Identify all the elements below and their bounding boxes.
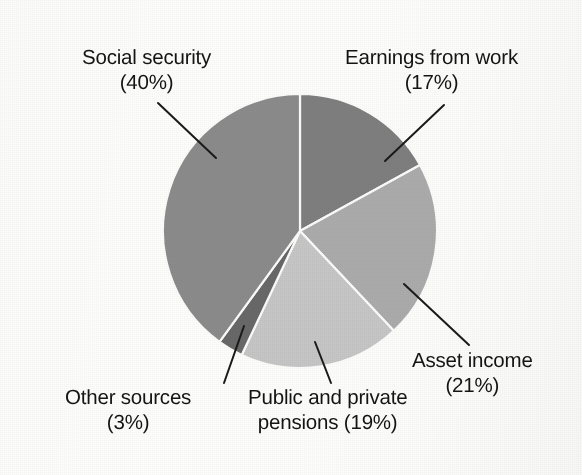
- pie-label-public-and-private-pensions-value: pensions (19%): [248, 410, 407, 435]
- asset-income-leader: [404, 284, 469, 345]
- pie-label-other-sources-name: Other sources: [65, 385, 191, 410]
- pie-label-earnings-from-work-value: (17%): [345, 70, 518, 95]
- pie-label-social-security-name: Social security: [82, 45, 211, 70]
- pie-slices-group: [163, 94, 437, 368]
- pie-label-asset-income: Asset income (21%): [412, 348, 533, 398]
- pie-label-other-sources-value: (3%): [65, 410, 191, 435]
- pie-label-asset-income-name: Asset income: [412, 348, 533, 373]
- pie-label-earnings-from-work-name: Earnings from work: [345, 45, 518, 70]
- pie-label-social-security: Social security (40%): [82, 45, 211, 95]
- pie-label-public-and-private-pensions-name: Public and private: [248, 385, 407, 410]
- pie-label-public-and-private-pensions: Public and private pensions (19%): [248, 385, 407, 435]
- pie-chart-figure: Social security (40%) Earnings from work…: [0, 0, 582, 475]
- pie-label-other-sources: Other sources (3%): [65, 385, 191, 435]
- pie-label-earnings-from-work: Earnings from work (17%): [345, 45, 518, 95]
- pie-label-social-security-value: (40%): [82, 70, 211, 95]
- pie-label-asset-income-value: (21%): [412, 373, 533, 398]
